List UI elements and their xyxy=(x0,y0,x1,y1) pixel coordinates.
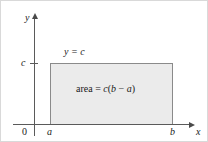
area-formula-label: area = c(b − a) xyxy=(76,84,135,94)
origin-label: 0 xyxy=(22,127,27,137)
area-formula-prefix: area = xyxy=(76,83,103,94)
y-axis-line xyxy=(34,18,35,136)
x-axis-label: x xyxy=(196,127,200,137)
area-formula-close-paren: ) xyxy=(132,83,135,94)
figure-canvas: y x c 0 a b y = c area = c(b − a) xyxy=(0,0,208,142)
y-axis-label: y xyxy=(25,13,29,23)
x-axis-line xyxy=(13,124,190,125)
x-tick-label-a: a xyxy=(47,127,52,137)
curve-label-y-equals-c: y = c xyxy=(64,47,85,57)
y-tick-label-c: c xyxy=(21,58,25,68)
y-axis-tick-c xyxy=(30,63,38,64)
x-tick-label-b: b xyxy=(170,127,175,137)
y-axis-arrow-icon xyxy=(32,13,38,19)
x-axis-arrow-icon xyxy=(189,122,195,128)
area-formula-minus: − xyxy=(116,83,127,94)
